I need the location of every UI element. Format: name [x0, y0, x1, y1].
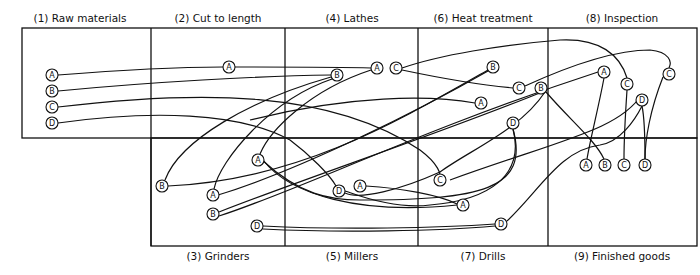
flow-path	[260, 70, 371, 154]
part-node-c: C	[513, 82, 525, 94]
part-node-b: B	[487, 61, 499, 73]
svg-text:B: B	[334, 71, 340, 80]
svg-text:A: A	[374, 64, 380, 73]
flow-path	[250, 98, 475, 120]
part-node-a: A	[580, 159, 592, 171]
part-node-a: A	[207, 189, 219, 201]
part-node-a: A	[457, 199, 469, 211]
svg-text:D: D	[336, 187, 342, 196]
part-node-a: A	[371, 62, 383, 74]
part-node-b: B	[331, 69, 343, 81]
part-node-d: D	[46, 117, 58, 129]
part-node-b: B	[46, 85, 58, 97]
part-node-a: A	[598, 66, 610, 78]
svg-text:B: B	[490, 63, 496, 72]
part-node-a: A	[223, 61, 235, 73]
svg-text:B: B	[210, 210, 216, 219]
svg-text:D: D	[642, 161, 648, 170]
svg-text:A: A	[460, 201, 466, 210]
svg-text:B: B	[538, 84, 544, 93]
flow-paths	[58, 40, 670, 231]
part-node-c: C	[390, 62, 402, 74]
part-node-a: A	[252, 154, 264, 166]
svg-text:D: D	[254, 222, 260, 231]
part-node-b: B	[207, 208, 219, 220]
part-node-c: C	[618, 159, 630, 171]
part-node-c: C	[434, 174, 446, 186]
part-node-a: A	[354, 180, 366, 192]
flow-path	[218, 71, 488, 195]
svg-text:A: A	[210, 191, 216, 200]
svg-text:A: A	[478, 99, 484, 108]
svg-text:A: A	[583, 161, 589, 170]
svg-text:C: C	[516, 84, 522, 93]
part-node-d: D	[495, 218, 507, 230]
flow-path	[58, 67, 223, 75]
svg-text:B: B	[49, 87, 55, 96]
part-node-b: B	[156, 180, 168, 192]
flow-path	[624, 90, 627, 159]
flow-nodes: ABCDABACBCADACCBDABCDBAABDDACAD	[46, 61, 675, 232]
svg-text:C: C	[621, 161, 627, 170]
svg-text:A: A	[357, 182, 363, 191]
part-node-d: D	[251, 220, 263, 232]
svg-text:D: D	[49, 119, 55, 128]
svg-text:A: A	[601, 68, 607, 77]
svg-text:B: B	[159, 182, 165, 191]
svg-text:D: D	[498, 220, 504, 229]
part-node-c: C	[621, 78, 633, 90]
part-node-b: B	[535, 82, 547, 94]
part-node-d: D	[636, 94, 648, 106]
part-node-d: D	[333, 185, 345, 197]
part-node-d: D	[507, 117, 519, 129]
svg-text:A: A	[226, 63, 232, 72]
flow-path	[165, 77, 331, 180]
flow-path	[168, 70, 488, 186]
flow-path	[263, 224, 495, 228]
svg-text:A: A	[49, 71, 55, 80]
part-node-b: B	[599, 159, 611, 171]
flow-path	[58, 115, 336, 186]
part-node-d: D	[639, 159, 651, 171]
part-node-c: C	[46, 101, 58, 113]
svg-text:C: C	[393, 64, 399, 73]
svg-text:C: C	[624, 80, 630, 89]
flow-path	[58, 75, 331, 91]
part-node-c: C	[663, 68, 675, 80]
svg-text:C: C	[666, 70, 672, 79]
flow-path	[645, 77, 663, 159]
svg-text:C: C	[437, 176, 443, 185]
svg-text:C: C	[49, 103, 55, 112]
part-node-a: A	[46, 69, 58, 81]
flow-path	[546, 92, 604, 159]
flow-path	[525, 50, 670, 86]
svg-text:D: D	[639, 96, 645, 105]
flow-path	[642, 106, 645, 159]
svg-text:B: B	[602, 161, 608, 170]
flow-path	[402, 40, 627, 78]
part-node-a: A	[475, 97, 487, 109]
svg-text:D: D	[510, 119, 516, 128]
flow-path	[235, 67, 371, 68]
svg-text:A: A	[255, 156, 261, 165]
flow-path	[58, 97, 440, 175]
flow-diagram: ABCDABACBCADACCBDABCDBAABDDACAD	[0, 0, 700, 275]
